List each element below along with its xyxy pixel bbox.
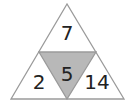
center-number: 5: [61, 62, 74, 86]
triangle-diagram: 7 5 2 14: [0, 0, 131, 104]
bottom-left-number: 2: [33, 70, 46, 94]
bottom-right-number: 14: [84, 70, 109, 94]
top-number: 7: [61, 21, 74, 45]
